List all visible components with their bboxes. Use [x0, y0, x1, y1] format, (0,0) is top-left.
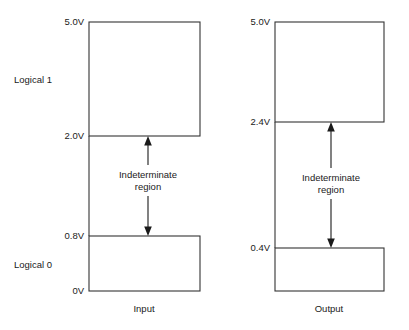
input-indeterminate-label-line2: region	[135, 181, 161, 192]
input-high-band-outline	[89, 22, 200, 136]
input-level-low-max-label: 0.8V	[64, 230, 84, 241]
input-level-high-min-label: 2.0V	[64, 130, 84, 141]
output-indeterminate-label-line1: Indeterminate	[302, 172, 360, 183]
output-level-top-label: 5.0V	[250, 16, 270, 27]
input-indeterminate-label-line1: Indeterminate	[119, 169, 177, 180]
output-level-low-max-label: 0.4V	[250, 242, 270, 253]
output-high-band-outline	[275, 22, 384, 122]
input-axis-title: Input	[133, 303, 154, 314]
output-logical-one-band	[275, 22, 384, 122]
figure-canvas: Indeterminate region 5.0V 2.0V 0.8V 0V I…	[0, 0, 409, 330]
input-level-top-label: 5.0V	[64, 16, 84, 27]
input-logical-one-band	[89, 22, 200, 136]
output-indeterminate-label-line2: region	[318, 184, 344, 195]
output-low-band-outline	[275, 248, 384, 291]
input-logical-zero-band	[89, 236, 200, 291]
input-level-bottom-label: 0V	[72, 285, 84, 296]
input-low-band-outline	[89, 236, 200, 291]
logical-zero-label: Logical 0	[14, 259, 52, 270]
output-logical-zero-band	[275, 248, 384, 291]
output-axis-title: Output	[315, 303, 344, 314]
logical-one-label: Logical 1	[14, 74, 52, 85]
output-level-high-min-label: 2.4V	[250, 116, 270, 127]
